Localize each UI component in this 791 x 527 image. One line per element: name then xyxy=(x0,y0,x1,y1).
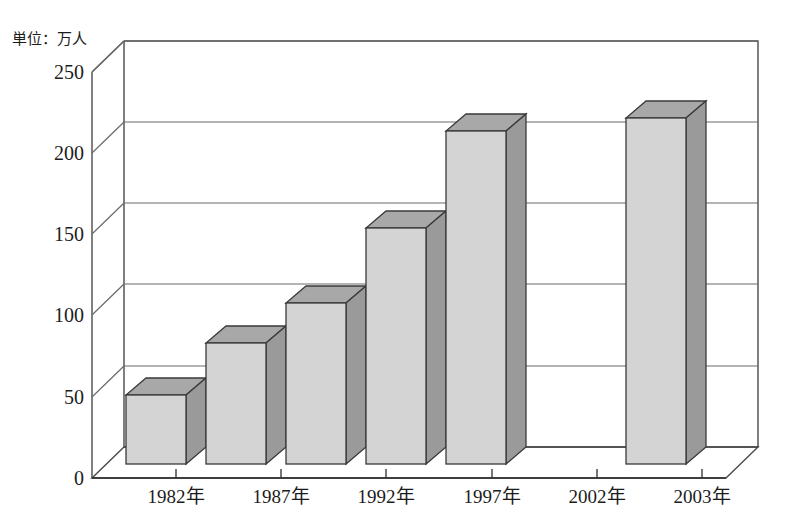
y-tick-label-150: 150 xyxy=(54,223,84,245)
x-tick-label-1997: 1997年 xyxy=(464,486,521,507)
bar-chart: 単位：万人 xyxy=(0,0,791,527)
x-tick-label-1992: 1992年 xyxy=(358,486,415,507)
unit-caption: 単位：万人 xyxy=(12,30,87,48)
bar-1982[interactable] xyxy=(126,378,206,464)
y-tick-label-200: 200 xyxy=(54,142,84,164)
y-tick-label-250: 250 xyxy=(54,61,84,83)
bar-1997[interactable] xyxy=(366,211,446,464)
bar-2002[interactable] xyxy=(446,114,526,464)
x-tick-label-2003: 2003年 xyxy=(674,486,731,507)
x-tick-label-1987: 1987年 xyxy=(253,486,310,507)
y-tick-label-50: 50 xyxy=(64,386,84,408)
y-tick-label-0: 0 xyxy=(74,467,84,489)
x-tick-label-2002: 2002年 xyxy=(569,486,626,507)
bar-2003[interactable] xyxy=(626,101,706,464)
chart-canvas: 単位：万人 xyxy=(0,0,791,527)
bar-1987[interactable] xyxy=(206,326,286,464)
bar-1992[interactable] xyxy=(286,286,366,464)
y-tick-label-100: 100 xyxy=(54,304,84,326)
x-tick-label-1982: 1982年 xyxy=(148,486,205,507)
